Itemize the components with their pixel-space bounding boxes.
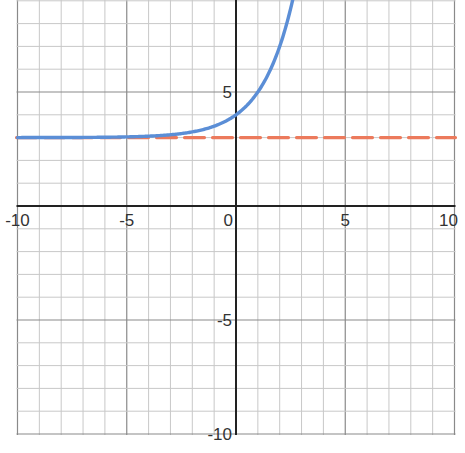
axes <box>17 0 456 435</box>
graph-canvas: -10-505105-5-10 <box>0 0 465 453</box>
y-tick-label: -10 <box>207 425 232 444</box>
y-tick-label: 5 <box>223 83 232 102</box>
y-tick-label: -5 <box>217 311 232 330</box>
x-tick-label: 5 <box>341 211 350 230</box>
x-tick-label: 0 <box>224 211 233 230</box>
x-tick-label: -10 <box>5 211 30 230</box>
x-tick-label: -5 <box>119 211 134 230</box>
x-tick-label: 10 <box>439 211 458 230</box>
